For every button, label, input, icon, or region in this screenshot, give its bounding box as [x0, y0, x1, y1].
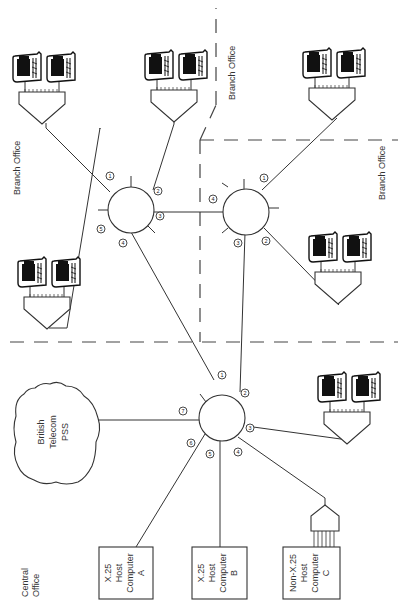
svg-text:3: 3	[248, 425, 251, 431]
port-badge: 2	[241, 389, 249, 397]
adapter-lines	[314, 531, 334, 547]
port-badge: 1	[260, 174, 268, 182]
port-badge: 3	[234, 239, 242, 247]
svg-text:1: 1	[262, 175, 265, 181]
svg-text:2: 2	[264, 238, 267, 244]
svg-text:Host: Host	[207, 563, 217, 582]
port-badge: 6	[187, 439, 195, 447]
svg-text:2: 2	[243, 390, 246, 396]
svg-text:3: 3	[236, 240, 239, 246]
terminal-cluster-1[interactable]	[13, 52, 75, 124]
svg-text:Telecom: Telecom	[48, 415, 58, 449]
host-computer-c[interactable]: Non-X.25 Host Computer C	[283, 505, 340, 599]
svg-text:A: A	[136, 570, 146, 576]
svg-text:Computer: Computer	[218, 553, 228, 593]
switching-node-branch-right[interactable]	[222, 179, 279, 235]
svg-text:C: C	[321, 569, 331, 576]
svg-text:2: 2	[156, 188, 159, 194]
svg-text:British: British	[36, 419, 46, 444]
svg-text:Office: Office	[31, 574, 41, 597]
svg-text:X.25: X.25	[196, 564, 206, 583]
link-terminal-cluster-4	[262, 118, 337, 190]
svg-text:Central: Central	[20, 568, 30, 597]
port-badge: 3	[246, 424, 254, 432]
link-host-c	[238, 437, 325, 505]
port-badge: 3	[156, 212, 164, 220]
svg-text:Non-X.25: Non-X.25	[288, 554, 298, 592]
svg-text:B: B	[229, 570, 239, 576]
port-badge: 4	[209, 195, 217, 203]
link-host-a	[136, 434, 205, 547]
port-badge: 2	[262, 237, 270, 245]
port-badge: 1	[106, 172, 114, 180]
label-branch-office-top-right: Branch Office	[227, 46, 237, 100]
svg-text:Computer: Computer	[125, 553, 135, 593]
port-badge: 1	[218, 371, 226, 379]
port-badge: 4	[234, 448, 242, 456]
svg-text:4: 4	[236, 449, 239, 455]
port-badge: 7	[179, 407, 187, 415]
svg-text:4: 4	[211, 196, 214, 202]
svg-text:6: 6	[189, 440, 192, 446]
svg-text:1: 1	[220, 372, 223, 378]
terminal-cluster-6[interactable]	[318, 372, 380, 444]
label-branch-office-left: Branch Office	[12, 141, 22, 195]
label-branch-office-right: Branch Office	[377, 146, 387, 200]
svg-text:1: 1	[108, 173, 111, 179]
svg-text:5: 5	[99, 226, 102, 232]
branch-divider-diagonal	[200, 105, 216, 140]
svg-text:Computer: Computer	[310, 553, 320, 593]
link-branch-left-to-central	[131, 232, 214, 380]
switching-node-branch-left[interactable]	[98, 176, 155, 233]
host-computer-b[interactable]: X.25 Host Computer B	[192, 547, 247, 599]
port-badge: 4	[119, 239, 127, 247]
connections	[46, 118, 348, 547]
terminal-cluster-2[interactable]	[145, 50, 207, 122]
link-terminal-cluster-1	[46, 123, 110, 192]
port-badge: 5	[97, 225, 105, 233]
link-branch-right-to-central	[240, 233, 245, 392]
link-terminal-cluster-2	[153, 118, 174, 190]
protocol-adapter	[311, 505, 339, 531]
svg-text:3: 3	[158, 213, 161, 219]
svg-text:5: 5	[208, 451, 211, 457]
label-central-office: Central Office	[20, 568, 41, 597]
port-badge: 2	[154, 187, 162, 195]
terminal-cluster-4[interactable]	[303, 48, 365, 120]
terminal-cluster-3[interactable]	[18, 257, 80, 329]
terminal-cluster-5[interactable]	[309, 232, 371, 304]
svg-text:4: 4	[121, 240, 124, 246]
port-badge: 5	[206, 450, 214, 458]
svg-text:7: 7	[181, 408, 184, 414]
svg-text:Host: Host	[114, 563, 124, 582]
switching-node-central[interactable]	[199, 394, 245, 441]
svg-text:X.25: X.25	[103, 564, 113, 583]
host-computer-a[interactable]: X.25 Host Computer A	[99, 547, 153, 599]
network-diagram: 1 2 3 4 5 1 2 3 4 1 2 3 4 5 6 7 British …	[0, 0, 399, 609]
svg-text:PSS: PSS	[60, 423, 70, 441]
svg-text:Host: Host	[299, 563, 309, 582]
